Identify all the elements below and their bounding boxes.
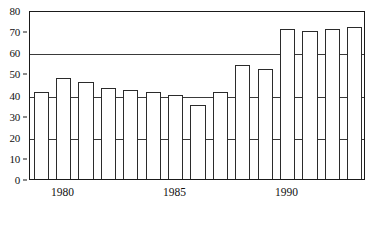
bar xyxy=(302,31,317,179)
y-tick-label: 10 xyxy=(9,153,20,164)
bar xyxy=(235,65,250,179)
y-tick-label: 70 xyxy=(9,27,20,38)
bar xyxy=(347,27,362,179)
bar xyxy=(258,69,273,179)
bar xyxy=(280,29,295,179)
plot-area xyxy=(29,11,365,180)
x-tick-label: 1980 xyxy=(51,186,74,198)
x-tick-label: 1990 xyxy=(275,186,298,198)
y-tick-label: 30 xyxy=(9,111,20,122)
y-tick-label: 20 xyxy=(9,132,20,143)
y-tick-mark xyxy=(23,158,27,159)
bar xyxy=(123,90,138,179)
bar xyxy=(101,88,116,179)
y-tick-label: 40 xyxy=(9,90,20,101)
bar xyxy=(146,92,161,179)
y-tick-label: 80 xyxy=(9,6,20,17)
bar xyxy=(56,78,71,179)
y-tick-label: 60 xyxy=(9,48,20,59)
bar xyxy=(325,29,340,179)
y-tick-label: 50 xyxy=(9,69,20,80)
x-tick-label: 1985 xyxy=(163,186,186,198)
bars-layer xyxy=(30,12,364,179)
bar xyxy=(168,95,183,180)
y-tick-mark xyxy=(23,32,27,33)
bar xyxy=(213,92,228,179)
bar xyxy=(34,92,49,179)
bar xyxy=(190,105,205,179)
bar-chart: 01020304050607080 198019851990 xyxy=(0,0,370,227)
y-tick-mark xyxy=(23,74,27,75)
y-tick-mark xyxy=(23,116,27,117)
x-axis: 198019851990 xyxy=(0,180,370,227)
bar xyxy=(78,82,93,179)
